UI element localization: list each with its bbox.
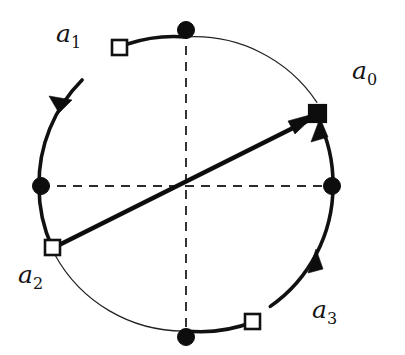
arc-a1-to-top (128, 36, 187, 44)
label-a2-base: a (18, 260, 33, 289)
arc-a3-to-bottom (186, 322, 253, 332)
label-a2: a2 (18, 262, 43, 287)
circle-arc-figure (0, 0, 405, 355)
diagram-canvas: a0 a1 a2 a3 (0, 0, 405, 355)
arc-top-to-a0 (186, 37, 317, 103)
arc-bottom-to-a2 (55, 254, 187, 331)
arc-right-to-a3 (270, 186, 333, 306)
arrowhead-group (49, 96, 328, 273)
label-a0-base: a (352, 56, 367, 85)
label-a1-subscript: 1 (71, 33, 81, 52)
label-a1-base: a (56, 19, 71, 48)
label-a0-subscript: 0 (367, 70, 377, 89)
label-a2-subscript: 2 (33, 274, 43, 293)
a1-square-marker (112, 40, 127, 55)
label-a1: a1 (56, 21, 81, 46)
label-a3-base: a (312, 295, 327, 324)
left-node (33, 178, 50, 195)
chord-group (55, 120, 309, 247)
label-a3: a3 (312, 297, 337, 322)
a2-square-marker (45, 240, 60, 255)
a3-square-marker (245, 314, 260, 329)
arc-arrow-upper-left-icon (49, 96, 72, 113)
arc-left-to-a1 (39, 80, 82, 186)
label-a3-subscript: 3 (327, 309, 337, 328)
arc-a2-to-left (39, 186, 52, 247)
arc-arrow-right-icon (308, 249, 323, 273)
label-a0: a0 (352, 58, 377, 83)
right-node (324, 178, 341, 195)
directed-chord (55, 120, 309, 247)
bottom-node (178, 329, 195, 346)
a0-square-marker (309, 105, 326, 122)
top-node (178, 22, 195, 39)
